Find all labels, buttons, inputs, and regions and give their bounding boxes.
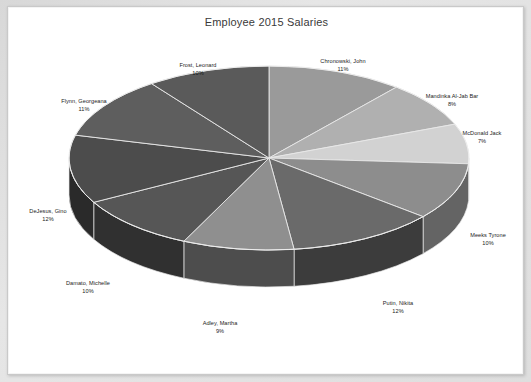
pie-label-name: Frost, Leonard xyxy=(153,61,243,69)
pie-label-percent: 12% xyxy=(7,215,90,223)
pie-label-frost-leonard: Frost, Leonard 10% xyxy=(153,61,243,77)
pie-label-name: McDonald Jack xyxy=(440,129,524,137)
pie-label-percent: 11% xyxy=(36,105,132,113)
pie-label-percent: 8% xyxy=(400,100,504,108)
pie-label-name: Flynn, Georgeana xyxy=(36,97,132,105)
pie-label-percent: 10% xyxy=(153,69,243,77)
pie-label-flynn-georgeana: Flynn, Georgeana 11% xyxy=(36,97,132,113)
pie-label-percent: 9% xyxy=(176,327,264,335)
pie-label-percent: 11% xyxy=(295,65,391,73)
pie-label-name: Adley, Martha xyxy=(176,319,264,327)
pie-label-adley-martha: Adley, Martha 9% xyxy=(176,319,264,335)
pie-label-name: Chronowski, John xyxy=(295,57,391,65)
pie-label-name: Damato, Michelle xyxy=(40,279,136,287)
pie-label-percent: 7% xyxy=(440,137,524,145)
pie-label-mcdonald-jack: McDonald Jack 7% xyxy=(440,129,524,145)
pie-label-name: Meeks Tyrone xyxy=(450,231,524,239)
pie-label-meeks-tyrone: Meeks Tyrone 10% xyxy=(450,231,524,247)
pie-label-percent: 10% xyxy=(450,239,524,247)
pie-chart-plot-area: Chronowski, John 11% Mandinka Al-Jab Bar… xyxy=(8,7,524,375)
pie-label-percent: 10% xyxy=(40,287,136,295)
pie-label-chronowski-john: Chronowski, John 11% xyxy=(295,57,391,73)
pie-label-percent: 12% xyxy=(356,307,440,315)
pie-label-mandinka-al-jab-bar: Mandinka Al-Jab Bar 8% xyxy=(400,92,504,108)
screenshot-root: Employee 2015 Salaries Chronowski, John … xyxy=(0,0,531,382)
pie-label-putin-nikita: Putin, Nikita 12% xyxy=(356,299,440,315)
pie-label-dejesus-gino: DeJesus, Gino 12% xyxy=(7,207,90,223)
pie-label-name: Mandinka Al-Jab Bar xyxy=(400,92,504,100)
chart-card: Employee 2015 Salaries Chronowski, John … xyxy=(7,6,524,375)
pie-label-damato-michelle: Damato, Michelle 10% xyxy=(40,279,136,295)
pie-chart-svg xyxy=(8,7,524,375)
pie-label-name: Putin, Nikita xyxy=(356,299,440,307)
pie-label-name: DeJesus, Gino xyxy=(7,207,90,215)
